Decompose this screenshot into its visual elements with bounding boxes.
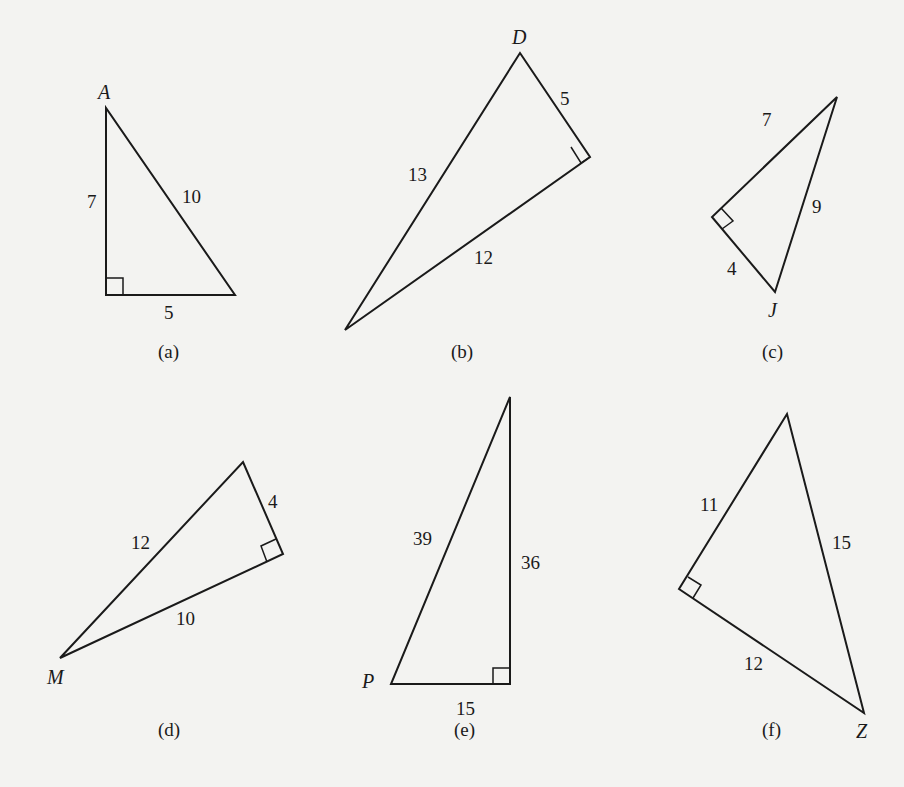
side-label: 39 [413, 529, 432, 548]
triangle-d [60, 462, 283, 658]
triangle-f [679, 414, 864, 713]
caption-e: (e) [454, 720, 475, 739]
right-angle-marker [571, 147, 590, 163]
caption-d: (d) [158, 720, 180, 739]
side-label: 10 [176, 609, 195, 628]
side-label: 15 [832, 533, 851, 552]
side-label: 5 [164, 303, 174, 322]
triangle-a [106, 108, 235, 295]
side-label: 13 [408, 165, 427, 184]
side-label: 4 [727, 259, 737, 278]
vertex-label-j: J [768, 300, 777, 320]
vertex-label-a: A [98, 82, 110, 102]
side-label: 7 [87, 192, 97, 211]
right-angle-marker [721, 208, 733, 229]
right-angle-marker [106, 278, 123, 295]
side-label: 4 [268, 492, 278, 511]
side-label: 15 [456, 699, 475, 718]
right-angle-marker [493, 668, 510, 684]
side-label: 5 [560, 89, 570, 108]
caption-f: (f) [762, 720, 781, 739]
caption-c: (c) [762, 342, 783, 361]
vertex-label-z: Z [856, 721, 867, 741]
side-label: 36 [521, 553, 540, 572]
vertex-label-m: M [47, 667, 64, 687]
side-label: 12 [744, 654, 763, 673]
vertex-label-d: D [512, 27, 526, 47]
side-label: 11 [700, 495, 718, 514]
side-label: 12 [474, 248, 493, 267]
side-label: 10 [182, 187, 201, 206]
caption-b: (b) [451, 342, 473, 361]
side-label: 12 [131, 533, 150, 552]
right-angle-marker [688, 577, 701, 598]
triangle-e [391, 397, 510, 684]
side-label: 9 [812, 197, 822, 216]
caption-a: (a) [158, 342, 179, 361]
side-label: 7 [762, 110, 772, 129]
vertex-label-p: P [362, 671, 374, 691]
triangle-b [345, 53, 590, 330]
